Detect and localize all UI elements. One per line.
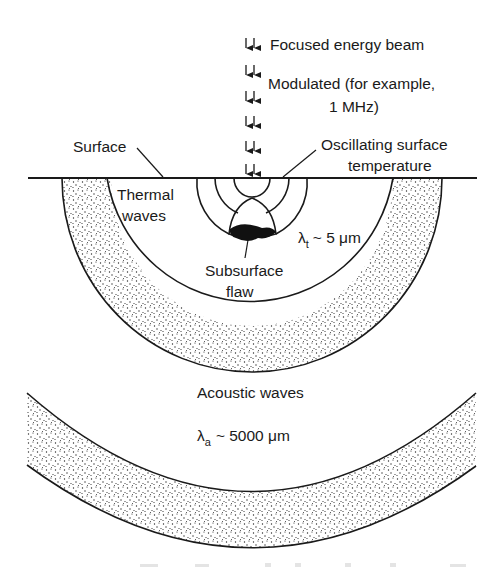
thermal-label-line2: waves [121, 207, 166, 224]
modulated-label-line2: 1 MHz) [329, 98, 379, 115]
thermal-acoustic-wave-diagram: Focused energy beam Modulated (for examp… [0, 0, 494, 571]
flaw-leader-line [245, 240, 248, 258]
thermal-label-line1: Thermal [117, 186, 174, 203]
lambda-subscript: t [306, 238, 309, 250]
cut-off-caption [140, 563, 466, 567]
acoustic-label: Acoustic waves [197, 384, 304, 401]
flaw-label-line1: Subsurface [205, 262, 283, 279]
subsurface-flaw [229, 198, 276, 241]
lambda-value: ~ 5000 μm [216, 427, 290, 444]
acoustic-wave-band-outer [27, 393, 476, 548]
oscillating-label-line2: temperature [348, 157, 432, 174]
modulated-label-line1: Modulated (for example, [268, 75, 435, 92]
lambda-value: ~ 5 μm [313, 229, 361, 246]
surface-label: Surface [73, 138, 126, 155]
thermal-wavelength-label: λt~ 5 μm [298, 229, 361, 250]
oscillating-label-line1: Oscillating surface [321, 136, 448, 153]
acoustic-wavelength-label: λa~ 5000 μm [197, 427, 290, 448]
flaw-label-line2: flaw [226, 283, 254, 300]
beam-label: Focused energy beam [270, 36, 424, 53]
lambda-subscript: a [205, 436, 212, 448]
